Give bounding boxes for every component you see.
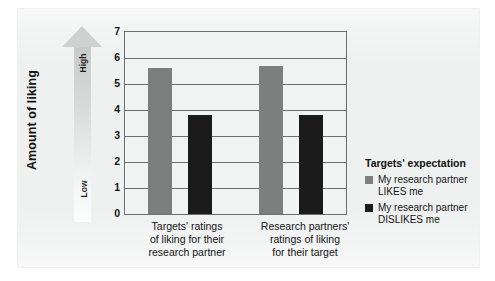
chart-legend: Targets' expectation My research partner… [365, 157, 487, 230]
arrow-low-text: Low [78, 181, 88, 198]
y-axis-title-text: Amount of liking [25, 70, 39, 170]
legend-item-dislikes: My research partner DISLIKES me [365, 202, 487, 226]
bar-dislikes-group-0 [188, 115, 212, 214]
arrow-head [62, 26, 102, 47]
y-tick-4: 4 [104, 104, 120, 115]
y-axis-tick-labels: 76543210 [100, 0, 120, 281]
y-tick-7: 7 [104, 26, 120, 37]
legend-title: Targets' expectation [365, 157, 487, 169]
legend-swatch-dislikes-icon [365, 204, 373, 212]
y-tick-6: 6 [104, 52, 120, 63]
x-cat-0-line3: research partner [122, 246, 252, 259]
arrow-high-label: High [70, 58, 96, 68]
bar-chart-figure: Amount of liking High Low 76543210 Targe… [0, 0, 495, 281]
direction-arrow-icon: High Low [62, 26, 102, 222]
x-axis-category-label-0: Targets' ratings of liking for their res… [122, 220, 252, 258]
x-cat-0-line1: Targets' ratings [122, 220, 252, 233]
arrow-high-text: High [78, 54, 88, 73]
y-axis-title: Amount of liking [17, 30, 47, 210]
y-tick-1: 1 [104, 182, 120, 193]
y-tick-3: 3 [104, 130, 120, 141]
x-cat-1-line3: for their target [240, 246, 370, 259]
gridline [125, 58, 346, 59]
bar-dislikes-group-1 [299, 115, 323, 214]
y-tick-0: 0 [104, 208, 120, 219]
legend-label-dislikes: My research partner DISLIKES me [378, 202, 467, 226]
legend-swatch-likes-icon [365, 176, 373, 184]
bar-likes-group-0 [148, 68, 172, 214]
x-cat-1-line2: ratings of liking [240, 233, 370, 246]
y-tick-5: 5 [104, 78, 120, 89]
x-cat-1-line1: Research partners' [240, 220, 370, 233]
bar-likes-group-1 [259, 66, 283, 214]
legend-label-likes: My research partner LIKES me [378, 174, 467, 198]
legend-label-likes-line2: LIKES me [378, 186, 467, 198]
y-tick-2: 2 [104, 156, 120, 167]
arrow-low-label: Low [70, 184, 96, 194]
x-axis-category-label-1: Research partners' ratings of liking for… [240, 220, 370, 258]
legend-item-likes: My research partner LIKES me [365, 174, 487, 198]
plot-area [124, 31, 347, 215]
legend-label-likes-line1: My research partner [378, 174, 467, 186]
legend-label-dislikes-line1: My research partner [378, 202, 467, 214]
legend-label-dislikes-line2: DISLIKES me [378, 214, 467, 226]
x-cat-0-line2: of liking for their [122, 233, 252, 246]
